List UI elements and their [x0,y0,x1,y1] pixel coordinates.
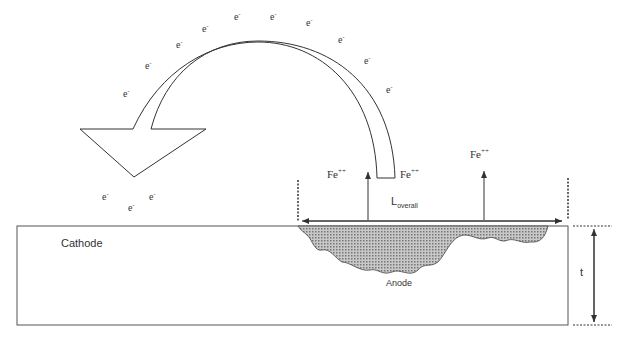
electron-label: e- [128,202,134,213]
ion-label-fe: Fe++ [400,167,419,180]
electron-flow-arrow [80,41,395,178]
electron-label: e- [202,23,208,34]
electron-label: e- [145,60,151,71]
electron-labels-cathode: e- e- e- [102,191,155,213]
ion-label-fe: Fe++ [470,147,489,160]
electron-label: e- [338,34,344,45]
electron-label: e- [234,11,240,22]
electron-label: e- [386,84,392,95]
anode-label: Anode [386,278,412,288]
electron-label: e- [270,11,276,22]
thickness-label: t [580,266,583,278]
cathode-label: Cathode [61,237,103,249]
electron-label: e- [306,17,312,28]
electron-label: e- [149,191,155,202]
corrosion-diagram: e- e- e- e- e- e- e- e- e- e- e- e- e- F… [0,0,634,345]
ion-label-fe: Fe++ [327,167,346,180]
electron-label: e- [176,39,182,50]
anode-pit [298,226,548,273]
electron-label: e- [102,191,108,202]
length-label: Loverall [391,195,418,209]
electron-label: e- [123,88,129,99]
electron-label: e- [364,55,370,66]
